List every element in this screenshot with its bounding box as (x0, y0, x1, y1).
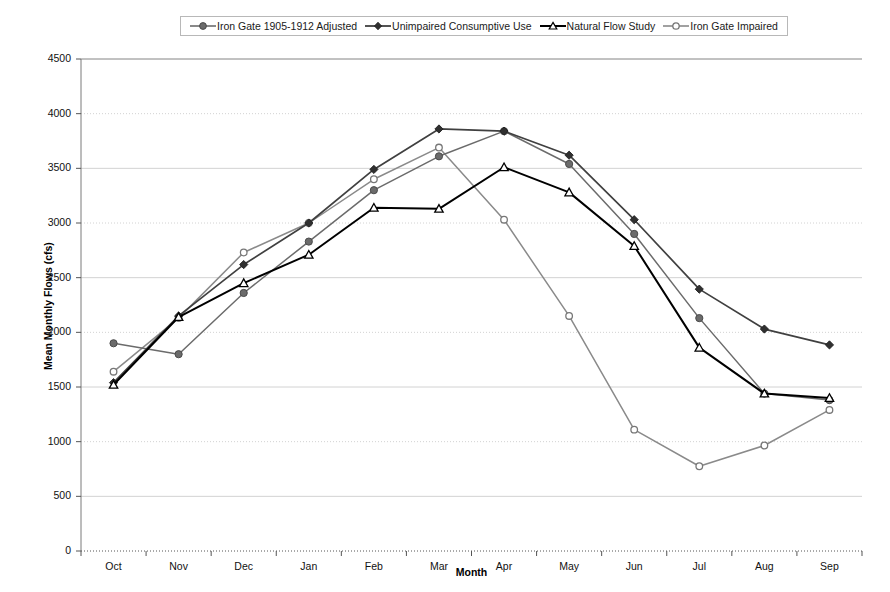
data-point (566, 313, 573, 320)
data-point (371, 176, 378, 183)
data-point (761, 442, 768, 449)
data-point (501, 216, 508, 223)
data-point (500, 163, 508, 171)
data-point (110, 340, 117, 347)
data-point (436, 144, 443, 151)
data-point (370, 187, 377, 194)
data-point (696, 315, 703, 322)
data-point (435, 125, 443, 133)
data-point (175, 351, 182, 358)
data-point (240, 249, 247, 256)
series-line (114, 131, 830, 400)
data-point (696, 463, 703, 470)
data-point (631, 230, 638, 237)
data-point (760, 325, 768, 333)
plot-area (0, 0, 890, 592)
line-chart: Iron Gate 1905-1912 Adjusted Unimpaired … (0, 0, 890, 592)
data-point (435, 153, 442, 160)
series-iron-gate-1905-1912-adjusted (110, 128, 833, 404)
plot-frame (76, 59, 862, 556)
data-point (566, 160, 573, 167)
data-point (631, 426, 638, 433)
data-point (240, 289, 247, 296)
gridlines (81, 59, 862, 496)
data-point (825, 341, 833, 349)
series-iron-gate-impaired (110, 144, 833, 469)
data-point (826, 407, 833, 414)
data-point (110, 368, 117, 375)
data-point (305, 238, 312, 245)
series-natural-flow-study (109, 163, 833, 401)
series-line (114, 148, 830, 467)
